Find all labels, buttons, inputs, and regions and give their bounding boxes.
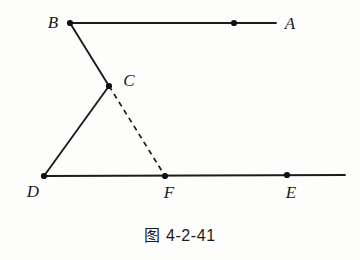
- vertex-dot-A: [231, 20, 237, 26]
- vertex-dot-C: [106, 83, 112, 89]
- vertex-dot-B: [67, 20, 73, 26]
- point-label-C: C: [123, 72, 135, 89]
- point-label-D: D: [27, 183, 39, 200]
- figure-caption: 图 4-2-41: [0, 222, 360, 246]
- segments-layer: [44, 23, 345, 176]
- segment-BC: [70, 23, 109, 86]
- point-label-B: B: [48, 14, 59, 31]
- vertex-dot-F: [162, 173, 168, 179]
- segment-CF: [109, 86, 165, 176]
- vertex-dot-D: [41, 173, 47, 179]
- point-label-A: A: [285, 15, 296, 32]
- geometry-figure: ABCDEF 图 4-2-41: [0, 0, 360, 260]
- segment-DE: [44, 175, 345, 176]
- vertex-dot-E: [284, 172, 290, 178]
- vertex-dots-layer: [41, 20, 290, 179]
- point-label-E: E: [286, 184, 297, 201]
- segment-CD: [44, 86, 109, 176]
- point-label-F: F: [164, 184, 175, 201]
- geometry-canvas: [0, 0, 360, 260]
